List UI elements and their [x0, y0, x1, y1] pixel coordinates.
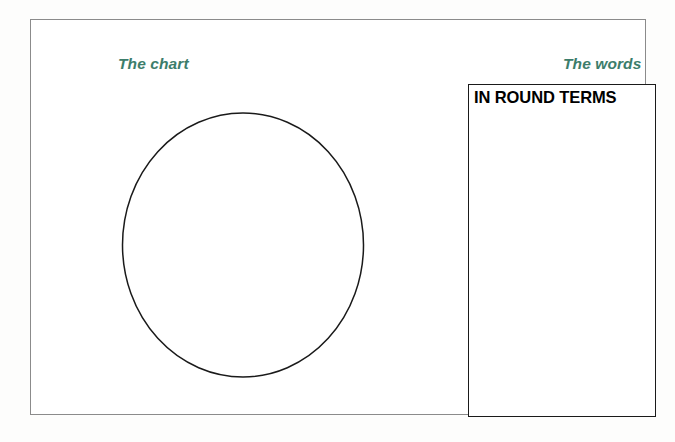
words-answer-box[interactable]: IN ROUND TERMS: [468, 84, 656, 417]
words-box-heading: IN ROUND TERMS: [474, 88, 617, 107]
page-frame: The chart The words IN ROUND TERMS: [30, 19, 646, 415]
pie-circle-outline: [123, 113, 364, 377]
words-box-body[interactable]: [475, 113, 649, 411]
pie-chart-outline-icon: [91, 90, 421, 410]
caption-the-chart: The chart: [118, 56, 189, 72]
worksheet-slide: The chart The words IN ROUND TERMS: [0, 0, 675, 442]
caption-the-words: The words: [563, 56, 641, 72]
pie-chart-area[interactable]: [91, 90, 421, 410]
